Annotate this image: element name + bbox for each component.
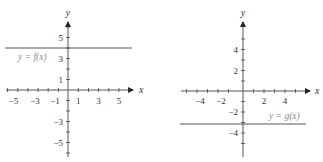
- f-function-label: y = f(x): [17, 52, 47, 63]
- left-x-tick-label: 1: [76, 96, 81, 106]
- right-x-tick-label: −2: [216, 96, 226, 106]
- left-y-axis-label: y: [65, 7, 71, 18]
- right-y-tick-label: 4: [234, 45, 239, 55]
- left-x-tick-label: −1: [50, 96, 60, 106]
- figure: −5 −3 −1 1 3 5 5 3 1 −3 −5 y x y = f(x): [0, 0, 323, 162]
- left-graph: −5 −3 −1 1 3 5 5 3 1 −3 −5 y x y = f(x): [5, 7, 144, 157]
- left-y-tick-label: 5: [59, 33, 64, 43]
- left-y-tick-label: −3: [53, 117, 63, 127]
- left-x-tick-label: −5: [9, 96, 19, 106]
- left-y-tick-label: −5: [53, 138, 63, 148]
- right-y-tick-label: −4: [228, 128, 238, 138]
- left-y-tick-label: 3: [59, 54, 64, 64]
- right-x-tick-label: −4: [195, 96, 205, 106]
- left-x-axis-label: x: [138, 84, 144, 95]
- right-x-tick-label: 2: [262, 96, 267, 106]
- right-y-axis-label: y: [240, 7, 246, 18]
- left-y-tick-label: 1: [59, 75, 64, 85]
- right-x-tick-label: 4: [283, 96, 288, 106]
- left-x-tick-label: 3: [96, 96, 101, 106]
- g-function-label: y = g(x): [268, 111, 300, 122]
- right-y-tick-label: 2: [234, 66, 239, 76]
- right-graph: −4 −2 2 4 4 2 −2 −4 y x y = g(x): [180, 7, 320, 157]
- right-y-tick-label: −2: [228, 107, 238, 117]
- right-x-axis-label: x: [314, 85, 320, 96]
- left-x-tick-label: −3: [30, 96, 40, 106]
- left-x-tick-label: 5: [117, 96, 122, 106]
